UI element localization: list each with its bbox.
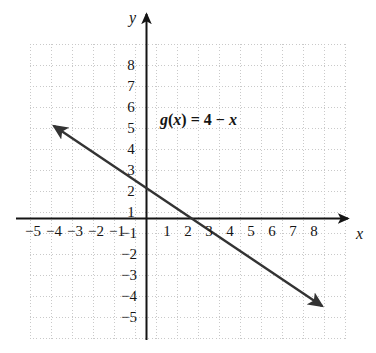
y-axis-label: y	[129, 10, 136, 26]
equation-equals-sign: =	[187, 111, 204, 128]
x-tick-label-minus-1: −1	[106, 224, 128, 239]
x-tick-label-minus-5: −5	[22, 224, 44, 239]
x-tick-label-8: 8	[305, 224, 323, 239]
function-equation-label: g(x) = 4 − x	[160, 112, 237, 128]
coordinate-graph: y x 8 7 6 5 4 3 2 1 −1 −2 −3 −4 −5 −5 −4…	[0, 0, 376, 353]
x-tick-label-5: 5	[242, 224, 260, 239]
x-tick-label-4: 4	[221, 224, 239, 239]
equation-constant: 4	[204, 111, 212, 128]
y-tick-label-minus-5: −5	[117, 310, 141, 325]
equation-output-variable: x	[229, 111, 237, 128]
x-tick-label-7: 7	[284, 224, 302, 239]
y-tick-label-1: 1	[122, 205, 140, 220]
y-tick-label-minus-3: −3	[117, 268, 141, 283]
function-line-g	[54, 126, 322, 306]
grid-vertical-lines	[31, 44, 346, 341]
y-tick-label-2: 2	[122, 184, 140, 199]
plot-canvas	[0, 0, 376, 353]
x-tick-label-minus-4: −4	[43, 224, 65, 239]
x-tick-label-1: 1	[158, 224, 176, 239]
x-axis-label: x	[356, 226, 363, 242]
equation-minus-sign: −	[212, 111, 229, 128]
y-tick-label-5: 5	[122, 121, 140, 136]
x-tick-label-2: 2	[179, 224, 197, 239]
x-tick-label-3: 3	[200, 224, 218, 239]
y-tick-label-4: 4	[122, 142, 140, 157]
y-tick-label-6: 6	[122, 100, 140, 115]
x-tick-label-6: 6	[263, 224, 281, 239]
y-tick-label-8: 8	[122, 58, 140, 73]
grid-horizontal-lines	[30, 45, 346, 339]
x-tick-label-minus-2: −2	[85, 224, 107, 239]
x-tick-label-minus-3: −3	[64, 224, 86, 239]
y-tick-label-3: 3	[122, 163, 140, 178]
y-tick-label-minus-2: −2	[117, 247, 141, 262]
y-tick-label-minus-4: −4	[117, 289, 141, 304]
equation-function-name: g	[160, 111, 168, 128]
y-tick-label-7: 7	[122, 79, 140, 94]
